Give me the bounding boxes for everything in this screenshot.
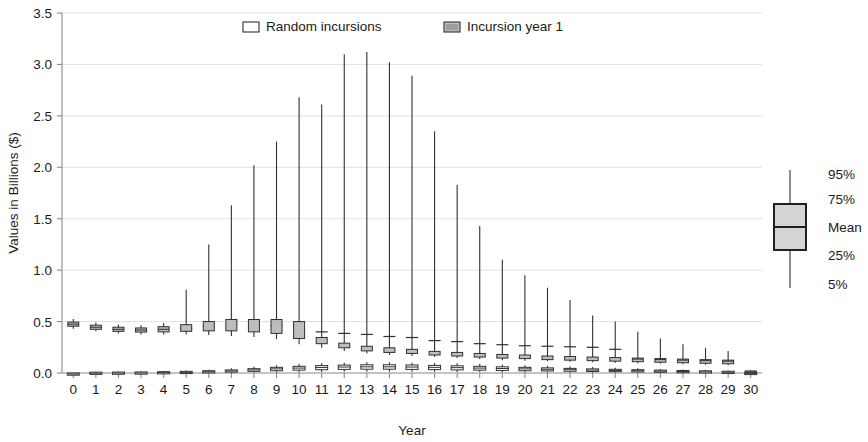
box-rect [361,346,372,351]
y-tick-label: 3.0 [33,57,52,72]
box-rect [474,353,485,357]
x-tick-label: 13 [359,382,374,397]
box-random-incursions-year-7 [225,368,237,372]
x-tick-label: 16 [427,382,442,397]
x-tick-label: 24 [608,382,624,397]
x-tick-label: 23 [585,382,600,397]
box-incursion-year-1-year-13 [361,52,373,353]
box-incursion-year-1-year-8 [248,165,260,337]
box-random-incursions-year-23 [587,367,599,373]
box-incursion-year-1-year-24 [609,322,621,363]
box-rect [294,322,305,339]
box-incursion-year-1-year-4 [158,323,169,334]
box-incursion-year-1-year-1 [90,323,101,332]
y-axis-title: Values in Billions ($) [6,132,21,253]
box-random-incursions-year-11 [316,363,328,372]
box-incursion-year-1-year-18 [474,226,486,359]
x-tick-label: 6 [205,382,213,397]
y-tick-label: 0.5 [33,315,52,330]
box-random-incursions-year-0 [67,373,79,375]
x-tick-label: 7 [228,382,236,397]
box-rect [497,354,508,358]
box-rect [226,320,237,331]
y-tick-label: 1.0 [33,263,52,278]
box-random-incursions-year-25 [632,368,644,372]
legend-label-1: Random incursions [266,19,382,34]
box-random-incursions-year-10 [293,364,305,372]
box-incursion-year-1-year-9 [271,142,283,339]
box-incursion-year-1-year-14 [383,62,395,355]
box-random-incursions-year-20 [519,365,531,372]
x-tick-label: 17 [450,382,465,397]
box-incursion-year-1-year-0 [68,319,79,329]
x-tick-label: 26 [653,382,668,397]
box-incursion-year-1-year-7 [225,205,237,336]
box-rect [610,358,621,362]
box-rect [248,320,259,332]
box-random-incursions-year-30 [745,372,757,375]
legend-label-2: Incursion year 1 [467,19,563,34]
box-rect [271,320,282,334]
x-tick-label: 21 [540,382,555,397]
y-tick-label: 0.0 [33,366,52,381]
legend-swatch-1 [243,22,259,32]
box-random-incursions-year-19 [496,365,508,373]
box-random-incursions-year-1 [90,372,102,375]
box-random-incursions-year-29 [722,370,734,373]
x-tick-label: 11 [315,382,329,397]
box-random-incursions-year-18 [474,364,486,372]
x-tick-label: 22 [563,382,578,397]
box-random-incursions-year-28 [700,370,712,373]
x-tick-label: 3 [137,382,145,397]
box-random-incursions-year-9 [271,365,283,372]
box-random-incursions-year-26 [654,369,666,373]
key-label-2: 75% [828,192,855,207]
x-tick-label: 18 [472,382,487,397]
box-incursion-year-1-year-11 [316,105,328,348]
x-tick-label: 4 [160,382,168,397]
box-rect [339,343,350,348]
box-incursion-year-1-year-5 [180,290,192,335]
x-tick-label: 15 [404,382,419,397]
x-tick-label: 20 [517,382,532,397]
chart-figure: 0.00.51.01.52.02.53.03.50123456789101112… [0,0,868,442]
box-random-incursions-year-4 [158,371,170,374]
x-tick-label: 28 [698,382,713,397]
box-incursion-year-1-year-26 [655,339,666,364]
x-tick-label: 9 [273,382,281,397]
x-tick-label: 10 [292,382,307,397]
box-rect [203,322,214,331]
box-rect [429,351,440,355]
x-tick-label: 8 [250,382,258,397]
key-label-3: Mean [828,220,862,235]
box-random-incursions-year-24 [609,368,621,373]
box-random-incursions-year-8 [248,367,260,373]
box-rect [542,356,553,360]
box-incursion-year-1-year-6 [203,244,215,335]
box-rect [407,349,418,353]
box-random-incursions-year-2 [112,372,124,375]
x-tick-label: 25 [630,382,645,397]
box-incursion-year-1-year-3 [136,325,147,334]
x-tick-label: 0 [70,382,78,397]
legend-swatch-inner-2 [446,24,458,30]
key-label-1: 95% [828,167,855,182]
box-rect [316,338,327,344]
box-rect [384,348,395,353]
box-random-incursions-year-27 [677,369,689,372]
box-incursion-year-1-year-29 [723,351,734,365]
key-label-4: 25% [828,248,855,263]
box-rect [587,357,598,361]
box-incursion-year-1-year-16 [429,131,441,357]
box-random-incursions-year-6 [203,370,215,373]
box-incursion-year-1-year-21 [541,288,553,362]
x-tick-label: 27 [675,382,690,397]
x-tick-label: 30 [743,382,758,397]
box-incursion-year-1-year-10 [293,97,305,344]
box-random-incursions-year-17 [451,363,463,372]
x-tick-label: 1 [92,382,100,397]
box-incursion-year-1-year-12 [338,54,350,351]
box-incursion-year-1-year-17 [451,185,463,358]
box-random-incursions-year-12 [338,363,350,372]
box-random-incursions-year-21 [541,366,553,373]
